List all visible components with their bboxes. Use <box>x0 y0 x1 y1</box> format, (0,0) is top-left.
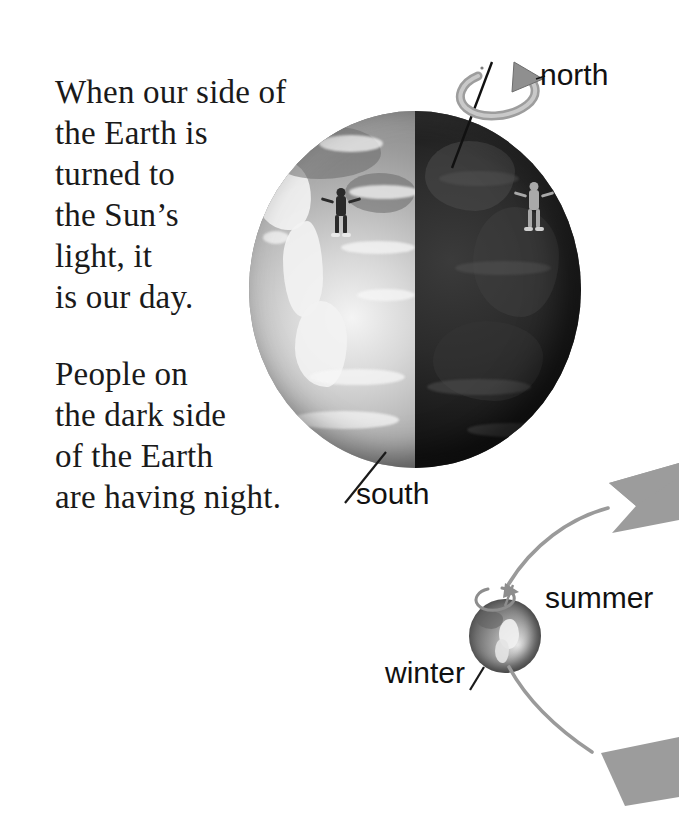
earth-shading-rim <box>249 111 581 468</box>
person-leg-left <box>335 215 339 234</box>
person-leg-right <box>536 209 540 228</box>
label-south: south <box>356 479 429 509</box>
earth-globe-small <box>469 599 541 673</box>
person-torso <box>336 196 346 216</box>
leader-winter <box>470 667 484 690</box>
person-foot-left <box>331 233 340 237</box>
paragraph-night: People on the dark side of the Earth are… <box>55 354 281 518</box>
orbit-arrow-upper <box>609 463 679 533</box>
person-on-night-side <box>521 182 547 232</box>
person-on-day-side <box>328 188 354 238</box>
person-torso <box>529 190 539 210</box>
orbit-path-lower <box>509 667 592 752</box>
orbit-arrow-lower <box>601 737 679 806</box>
person-foot-left <box>524 227 533 231</box>
person-foot-right <box>535 227 544 231</box>
rotation-arrow-north <box>460 62 543 116</box>
person-leg-left <box>528 209 532 228</box>
label-winter: winter <box>385 658 465 688</box>
earth-globe-large <box>249 111 581 468</box>
label-north: north <box>540 60 608 90</box>
person-foot-right <box>342 233 351 237</box>
person-leg-right <box>343 215 347 234</box>
label-summer: summer <box>545 583 653 613</box>
illustration-page: When our side of the Earth is turned to … <box>0 0 679 836</box>
orbit-path-upper <box>508 508 608 585</box>
